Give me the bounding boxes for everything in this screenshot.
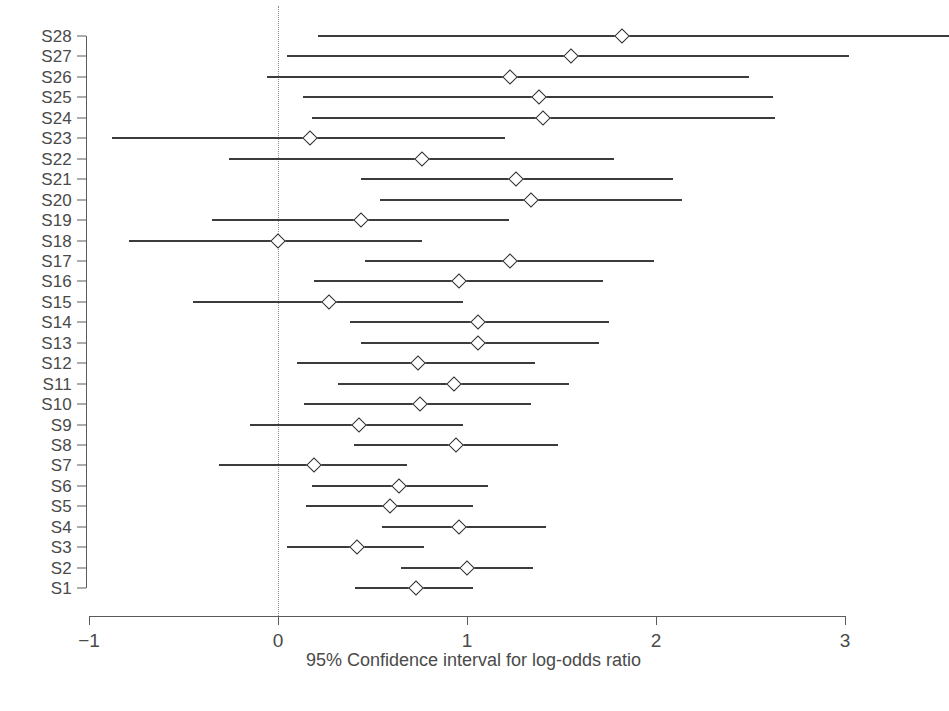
- y-axis-tick: [77, 138, 86, 139]
- y-axis-label-s6: S6: [51, 477, 72, 494]
- y-axis-tick: [77, 281, 86, 282]
- x-axis-tick: [89, 616, 90, 625]
- x-axis-tick-label: 1: [462, 630, 473, 652]
- x-axis-tick: [467, 616, 468, 625]
- y-axis-label-s16: S16: [41, 273, 72, 290]
- y-axis-tick: [77, 506, 86, 507]
- point-estimate-marker: [459, 560, 475, 576]
- point-estimate-marker: [503, 69, 519, 85]
- point-estimate-marker: [563, 49, 579, 65]
- y-axis-label-s5: S5: [51, 498, 72, 515]
- y-axis-tick: [77, 567, 86, 568]
- y-axis-label-s7: S7: [51, 457, 72, 474]
- y-axis-label-s22: S22: [41, 150, 72, 167]
- y-axis-tick: [77, 465, 86, 466]
- point-estimate-marker: [412, 396, 428, 412]
- y-axis-label-s13: S13: [41, 334, 72, 351]
- point-estimate-marker: [614, 28, 630, 44]
- y-axis-label-s17: S17: [41, 252, 72, 269]
- y-axis-label-s23: S23: [41, 130, 72, 147]
- y-axis-tick: [77, 260, 86, 261]
- y-axis-tick: [77, 117, 86, 118]
- x-axis-title: 95% Confidence interval for log-odds rat…: [0, 650, 947, 671]
- point-estimate-marker: [414, 151, 430, 167]
- y-axis-tick: [77, 526, 86, 527]
- y-axis-label-s18: S18: [41, 232, 72, 249]
- y-axis-label-s14: S14: [41, 314, 72, 331]
- point-estimate-marker: [471, 335, 487, 351]
- y-axis-tick: [77, 424, 86, 425]
- x-axis-tick-label: 3: [840, 630, 851, 652]
- y-axis-label-s10: S10: [41, 396, 72, 413]
- y-axis-label-s28: S28: [41, 28, 72, 45]
- x-axis-tick-label: 2: [651, 630, 662, 652]
- y-axis-label-s19: S19: [41, 212, 72, 229]
- y-axis-label-s11: S11: [42, 375, 72, 392]
- point-estimate-marker: [306, 458, 322, 474]
- y-axis-label-s20: S20: [41, 191, 72, 208]
- point-estimate-marker: [448, 437, 464, 453]
- y-axis-tick: [77, 363, 86, 364]
- y-axis-label-s24: S24: [41, 109, 72, 126]
- point-estimate-marker: [452, 274, 468, 290]
- y-axis-tick: [77, 220, 86, 221]
- y-axis-tick: [77, 76, 86, 77]
- point-estimate-marker: [351, 417, 367, 433]
- y-axis-tick: [77, 158, 86, 159]
- y-axis-label-s26: S26: [41, 68, 72, 85]
- point-estimate-marker: [391, 478, 407, 494]
- y-axis-tick: [77, 179, 86, 180]
- y-axis-label-s8: S8: [51, 437, 72, 454]
- point-estimate-marker: [382, 499, 398, 515]
- point-estimate-marker: [350, 539, 366, 555]
- point-estimate-marker: [446, 376, 462, 392]
- x-axis-tick-label: 0: [273, 630, 284, 652]
- point-estimate-marker: [508, 171, 524, 187]
- point-estimate-marker: [535, 110, 551, 126]
- y-axis-tick: [77, 301, 86, 302]
- y-axis-label-s4: S4: [51, 518, 72, 535]
- y-axis-label-s15: S15: [41, 293, 72, 310]
- point-estimate-marker: [452, 519, 468, 535]
- y-axis-tick: [77, 404, 86, 405]
- y-axis-label-s1: S1: [51, 580, 72, 597]
- y-axis-label-s9: S9: [51, 416, 72, 433]
- point-estimate-marker: [471, 315, 487, 331]
- y-axis-tick: [77, 588, 86, 589]
- y-axis-label-s27: S27: [41, 48, 72, 65]
- y-axis-spine: [86, 36, 87, 588]
- y-axis-tick: [77, 342, 86, 343]
- point-estimate-marker: [321, 294, 337, 310]
- point-estimate-marker: [523, 192, 539, 208]
- y-axis-label-s12: S12: [41, 355, 72, 372]
- y-axis-label-s3: S3: [51, 539, 72, 556]
- point-estimate-marker: [410, 355, 426, 371]
- x-axis-tick: [845, 616, 846, 625]
- y-axis-tick: [77, 56, 86, 57]
- point-estimate-marker: [353, 212, 369, 228]
- x-axis-tick: [656, 616, 657, 625]
- y-axis-tick: [77, 36, 86, 37]
- y-axis-tick: [77, 322, 86, 323]
- point-estimate-marker: [270, 233, 286, 249]
- y-axis-label-s21: S21: [41, 171, 72, 188]
- x-axis-tick: [278, 616, 279, 625]
- confidence-interval-line: [318, 35, 949, 37]
- point-estimate-marker: [531, 90, 547, 106]
- point-estimate-marker: [408, 580, 424, 596]
- y-axis-tick: [77, 485, 86, 486]
- y-axis-tick: [77, 97, 86, 98]
- y-axis-label-s2: S2: [51, 559, 72, 576]
- reference-line-zero: [278, 6, 279, 616]
- point-estimate-marker: [302, 130, 318, 146]
- y-axis-tick: [77, 240, 86, 241]
- y-axis-tick: [77, 445, 86, 446]
- y-axis-tick: [77, 199, 86, 200]
- y-axis-tick: [77, 383, 86, 384]
- point-estimate-marker: [503, 253, 519, 269]
- y-axis-label-s25: S25: [41, 89, 72, 106]
- y-axis-tick: [77, 547, 86, 548]
- x-axis-tick-label: −1: [78, 630, 100, 652]
